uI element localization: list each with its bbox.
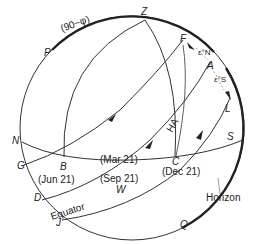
label-g: G (17, 160, 25, 171)
label-jun21: (Jun 21) (38, 174, 75, 185)
label-dec21: (Dec 21) (162, 166, 200, 177)
label-mar21: (Mar 21) (100, 154, 138, 165)
label-z: Z (140, 6, 148, 17)
label-l: L (225, 103, 231, 114)
arrow-icon (187, 42, 195, 50)
label-sep21: (Sep 21) (100, 173, 138, 184)
hour-angle-arc (176, 45, 185, 156)
label-b: B (60, 161, 67, 172)
label-eps-s: ε°S (214, 75, 226, 84)
jun21-path (24, 40, 183, 165)
label-s: S (227, 131, 234, 142)
arrow-icon (225, 91, 231, 100)
label-w: W (116, 184, 127, 195)
label-q: Q (180, 219, 188, 230)
label-a: A (206, 60, 214, 71)
label-d: D (34, 192, 41, 203)
hour-circle-left (64, 20, 145, 157)
label-eps-n: ε°N (198, 48, 211, 57)
label-ha: HA (164, 116, 181, 134)
vertical-circle-zc (145, 20, 176, 156)
label-n: N (12, 135, 20, 146)
label-f: F (180, 33, 187, 44)
celestial-sphere-diagram: Z (90−φ) P F ε°N A ε°S L S N G B D J W C… (0, 0, 259, 244)
arrow-icon (196, 130, 203, 140)
label-horizon: Horizon (206, 192, 240, 203)
label-p: P (44, 47, 51, 58)
